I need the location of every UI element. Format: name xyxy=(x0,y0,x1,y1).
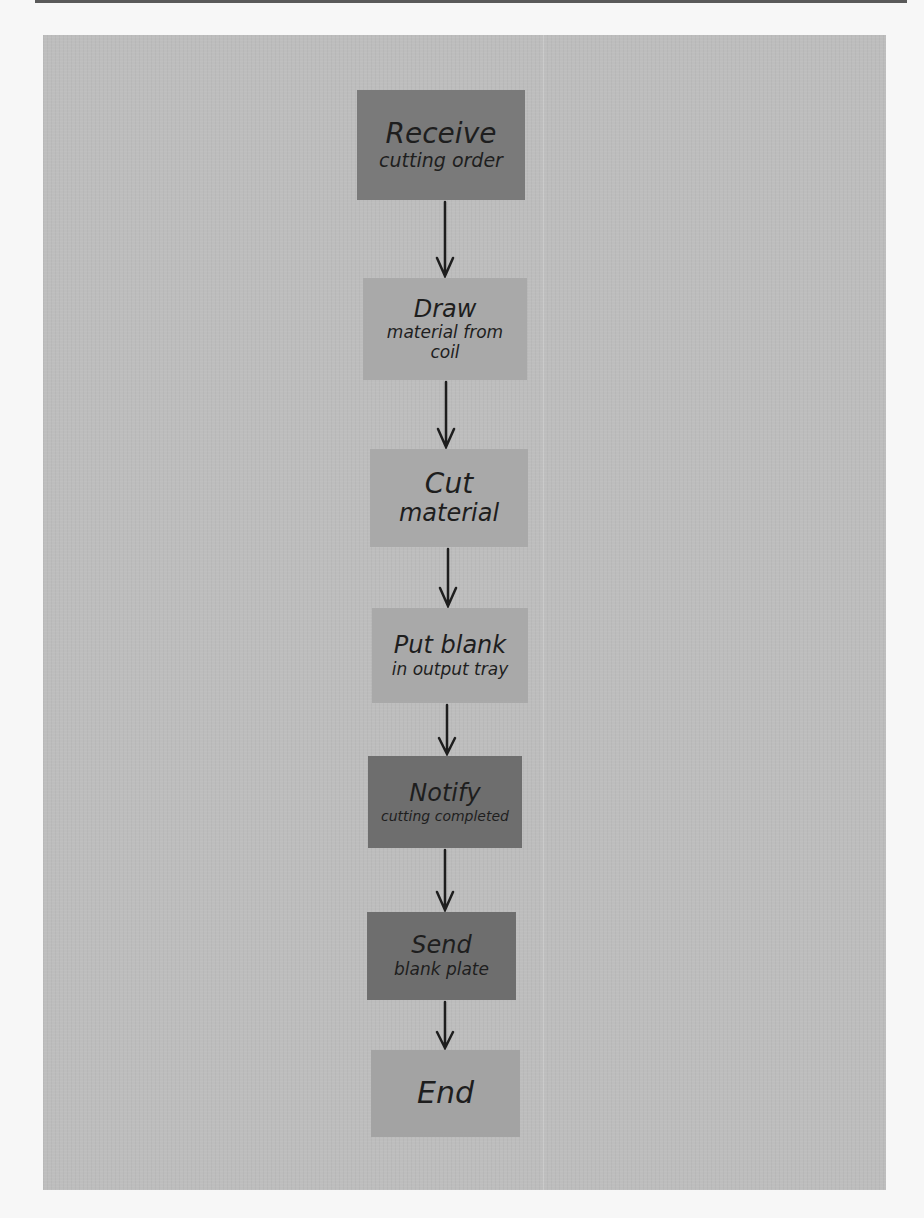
node-label-line2: in output tray xyxy=(392,660,509,680)
node-label-line1: Receive xyxy=(386,118,497,150)
page-top-rule xyxy=(35,0,907,3)
node-label-line1: Send xyxy=(411,932,471,960)
node-label-line2: material xyxy=(399,500,499,528)
arrow-down-icon xyxy=(435,848,455,912)
node-notify-cutting-completed: Notify cutting completed xyxy=(368,756,522,848)
node-label-line1: End xyxy=(417,1076,474,1111)
node-label-line1: Put blank xyxy=(394,632,506,660)
node-cut-material: Cut material xyxy=(370,449,528,547)
node-label-line2: cutting completed xyxy=(381,808,509,824)
node-label-line1: Draw xyxy=(414,296,477,324)
node-label-line2: blank plate xyxy=(394,960,489,980)
node-label-line1: Cut xyxy=(425,468,473,500)
node-draw-material-from-coil: Draw material from coil xyxy=(363,278,527,380)
node-put-blank-in-output-tray: Put blank in output tray xyxy=(372,608,528,703)
node-label-line1: Notify xyxy=(409,780,480,808)
arrow-down-icon xyxy=(437,703,457,756)
arrow-down-icon xyxy=(436,380,456,449)
arrow-down-icon xyxy=(438,547,458,608)
node-end: End xyxy=(371,1050,520,1137)
node-receive-cutting-order: Receive cutting order xyxy=(357,90,525,200)
node-label-line2: cutting order xyxy=(379,150,503,172)
arrow-down-icon xyxy=(435,1000,455,1050)
arrow-down-icon xyxy=(435,200,455,278)
node-send-blank-plate: Send blank plate xyxy=(367,912,516,1000)
node-label-line2: material from coil xyxy=(370,323,520,362)
paper-fold-line xyxy=(543,35,544,1190)
